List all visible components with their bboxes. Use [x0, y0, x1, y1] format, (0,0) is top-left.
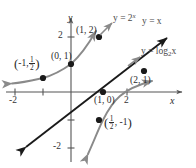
label-leader-arrows [100, 23, 140, 66]
point-label-1-2: (1, 2) [76, 26, 97, 36]
exp-label-exponent: x [133, 12, 136, 20]
point-label-1-0: (1, 0) [94, 96, 115, 106]
point-label-2-1: (2, 1) [130, 76, 151, 86]
tick-label-x-pos2: 2 [124, 96, 129, 106]
paren-close: ) [35, 57, 39, 70]
graph-figure: y x -2 2 2 -2 y = 2x y = x y = log2x (-1… [0, 0, 196, 168]
fraction-half: 12 [29, 56, 35, 72]
tick-label-y-neg2: -2 [53, 142, 61, 152]
fraction-denominator-2: 2 [109, 122, 115, 131]
exp-label-leader-icon [100, 23, 112, 35]
exponential-curve-label: y = 2x [113, 13, 136, 24]
y-axis-label: y [68, 13, 72, 23]
tick-label-y-pos2: 2 [58, 31, 63, 41]
point-label-neg1-half: (-1, 12) [14, 56, 39, 72]
exp-label-text: y = 2 [113, 13, 133, 23]
log-label-text: y = log [141, 46, 168, 56]
logarithmic-curve-label: y = log2x [141, 47, 176, 58]
tick-label-x-neg2: -2 [9, 96, 17, 106]
point-2-1 [141, 68, 147, 74]
paren-open: ( [14, 57, 18, 70]
point-half-neg1 [96, 117, 102, 123]
point-label-x: -1, [18, 59, 28, 69]
fraction-numerator: 1 [29, 56, 35, 64]
identity-line-label: y = x [142, 17, 162, 27]
fraction-denominator: 2 [29, 63, 35, 72]
point-label-0-1: (0, 1) [51, 52, 72, 62]
fraction-half-2: 12 [109, 115, 115, 131]
point-label-y-2: , -1 [115, 118, 128, 128]
point-neg1-half [40, 75, 46, 81]
paren-close-2: ) [128, 116, 132, 129]
point-label-half-neg1: (12, -1) [104, 115, 132, 131]
point-0-1 [68, 61, 74, 67]
log-label-tail: x [172, 46, 177, 56]
coordinate-plane-svg [0, 0, 196, 168]
fraction-numerator-2: 1 [109, 115, 115, 123]
paren-open-2: ( [104, 116, 108, 129]
x-axis-label: x [170, 96, 174, 106]
